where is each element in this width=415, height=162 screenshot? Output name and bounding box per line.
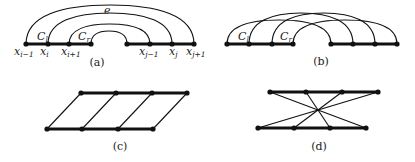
cross-edge [118,93,152,129]
caption-a: (a) [89,56,104,69]
vertex [350,41,355,46]
vertex [149,90,154,95]
vertex [255,125,260,130]
vertex [184,90,189,95]
label-c-r: Cr [78,30,90,44]
panel-b-arcs [227,13,397,44]
panel-c: (c) [44,90,189,153]
vertex [339,89,344,94]
panel-d: (d) [255,89,380,153]
vertex [269,41,274,46]
vertex [363,125,368,130]
cross-edge [47,93,81,129]
label-x-j-minus-1: xj−1 [139,45,159,59]
panel-b-nodes [224,41,399,46]
edge-label-e: e [104,4,111,17]
vertex [372,41,377,46]
vertex [78,90,83,95]
panel-a: e Cl Cr xi−1 xi xi+1 xj−1 xj xj+1 (a) [14,4,206,69]
vertex [79,126,84,131]
vertex [150,126,155,131]
vertex [394,41,399,46]
vertex [23,41,28,46]
panel-c-paths [47,93,187,129]
vertex [267,89,272,94]
panel-c-nodes [44,90,189,131]
panel-c-edges [47,93,187,129]
panel-d-edges [258,92,378,128]
label-c-r: Cr [280,30,292,44]
label-x-j-plus-1: xj+1 [186,45,206,59]
label-x-i: xi [40,45,49,59]
arc-edge [91,31,127,44]
label-x-i-plus-1: xi+1 [61,45,81,59]
cross-edge [270,92,366,128]
cross-edge [153,93,187,129]
label-x-i-minus-1: xi−1 [14,45,34,59]
vertex [115,126,120,131]
vertex [328,41,333,46]
cross-edge [82,93,116,129]
vertex [44,126,49,131]
vertex [147,41,152,46]
arc-edge [293,20,397,44]
arc-edge [48,13,172,44]
panel-b: Cl Cr (b) [224,13,399,68]
vertex [124,41,129,46]
label-c-l: Cl [238,30,249,44]
label-x-j: xj [169,45,178,59]
vertex [291,125,296,130]
vertex [224,41,229,46]
vertex [327,125,332,130]
caption-b: (b) [313,55,329,68]
label-c-l: Cl [37,30,48,44]
vertex [375,89,380,94]
figure-canvas: e Cl Cr xi−1 xi xi+1 xj−1 xj xj+1 (a) Cl… [0,0,415,162]
caption-d: (d) [311,140,327,153]
caption-c: (c) [113,140,128,153]
vertex [303,89,308,94]
vertex [113,90,118,95]
